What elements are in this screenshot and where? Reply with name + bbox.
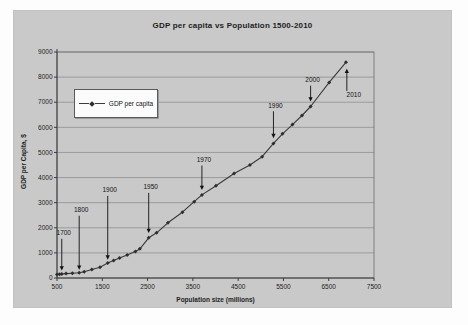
svg-text:1500: 1500 [95,283,110,290]
legend-line-icon [79,103,89,104]
data-point-marker [125,253,129,257]
x-axis-title: Population size (millions) [57,296,374,303]
annotation-1950: 1950 [143,183,158,233]
svg-text:2000: 2000 [38,224,53,231]
data-point-marker [112,258,116,262]
chart-area: GDP per capita vs Population 1500-2010 5… [13,10,452,308]
svg-text:4000: 4000 [38,174,53,181]
legend-line-icon [95,103,105,104]
svg-text:5000: 5000 [38,149,53,156]
svg-text:1800: 1800 [74,206,89,213]
svg-text:7000: 7000 [38,98,53,105]
svg-text:6000: 6000 [38,124,53,131]
svg-text:5500: 5500 [276,283,291,290]
svg-text:1700: 1700 [57,229,72,236]
annotation-2010: 2010 [345,69,362,99]
legend-diamond-marker-icon [89,101,95,107]
svg-text:1970: 1970 [197,156,212,163]
y-axis-ticks: 0100020003000400050006000700080009000 [38,48,57,281]
data-point-marker [64,272,68,276]
annotation-1990: 1990 [268,102,283,138]
data-point-marker [70,271,74,275]
y-axis-title: GDP per Capita, $ [20,49,27,275]
annotation-1900: 1900 [102,186,117,259]
svg-text:9000: 9000 [38,48,53,55]
data-point-marker [117,256,121,260]
data-point-marker [77,271,81,275]
svg-text:1990: 1990 [268,102,283,109]
chart-image: GDP per capita vs Population 1500-2010 5… [0,0,468,325]
svg-text:6500: 6500 [321,283,336,290]
data-point-marker [60,272,64,276]
svg-text:7500: 7500 [367,283,382,290]
data-point-marker [106,261,110,265]
x-axis-ticks: 5001500250035004500550065007500 [52,278,382,290]
annotation-1970: 1970 [197,156,212,190]
svg-text:3000: 3000 [38,199,53,206]
gdp-population-line-chart: 5001500250035004500550065007500010002000… [14,11,453,309]
legend-sample [79,102,105,106]
svg-text:3500: 3500 [186,283,201,290]
svg-text:8000: 8000 [38,73,53,80]
svg-text:1900: 1900 [102,186,117,193]
data-point-marker [90,267,94,271]
svg-text:0: 0 [49,274,53,281]
legend-label: GDP per capita [109,100,153,107]
legend: GDP per capita [74,89,158,118]
svg-text:2500: 2500 [140,283,155,290]
annotation-1800: 1800 [74,206,89,269]
svg-text:1950: 1950 [143,183,158,190]
svg-text:2010: 2010 [347,91,362,98]
annotation-1700: 1700 [57,229,72,270]
data-point-marker [82,270,86,274]
gridlines [57,52,374,253]
svg-text:4500: 4500 [231,283,246,290]
svg-text:2000: 2000 [305,76,320,83]
plot-border [57,49,374,278]
svg-text:1000: 1000 [38,249,53,256]
svg-text:500: 500 [52,283,63,290]
